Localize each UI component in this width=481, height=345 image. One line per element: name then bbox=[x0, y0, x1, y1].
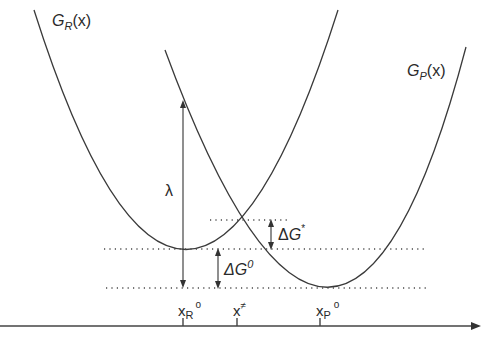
tick-label-xts: x≠ bbox=[233, 300, 247, 319]
reactant-curve-label: GR(x) bbox=[52, 12, 91, 32]
driving-force-label: ΔG0 bbox=[223, 258, 254, 278]
tick-label-xr: xRo bbox=[178, 299, 201, 321]
marcus-diagram: GR(x) GP(x) λ ΔG* ΔG0 xRo x≠ xPo bbox=[0, 0, 481, 345]
product-curve bbox=[165, 47, 466, 287]
product-curve-label: GP(x) bbox=[407, 62, 445, 82]
x-axis-arrowhead bbox=[471, 322, 481, 330]
lambda-label: λ bbox=[165, 182, 173, 199]
activation-energy-label: ΔG* bbox=[278, 223, 305, 243]
tick-label-xp: xPo bbox=[316, 299, 340, 321]
reactant-curve bbox=[34, 10, 338, 250]
